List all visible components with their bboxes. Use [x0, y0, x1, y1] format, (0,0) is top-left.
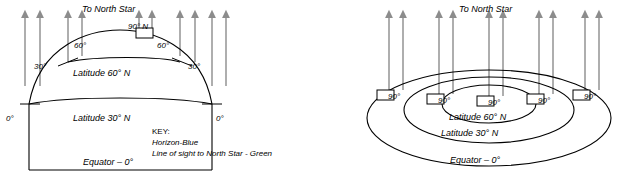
angle-label-30-left: 30° [34, 62, 47, 71]
right-latitude-60-label: Latitude 60° N [449, 112, 507, 122]
right-equator-label: Equator – 0° [450, 155, 501, 165]
latitude-60-label: Latitude 60° N [73, 68, 131, 78]
key-line-horizon: Horizon-Blue [152, 138, 199, 147]
angle-label-0-left: 0° [6, 114, 14, 123]
left-title: To North Star [82, 4, 136, 14]
angle-label-0-right: 0° [216, 114, 224, 123]
key-line-sight: Line of sight to North Star - Green [152, 149, 273, 158]
latitude-60-line [68, 58, 180, 63]
right-angle-label-3: 90° [488, 98, 501, 107]
right-latitude-30-label: Latitude 30° N [441, 128, 499, 138]
earth-dome [29, 30, 212, 104]
angle-label-60-right: 60° [157, 41, 170, 50]
right-angle-label-1: 90° [388, 92, 401, 101]
right-angle-label-2: 90° [438, 96, 451, 105]
right-north-star-arrows [389, 14, 599, 96]
right-panel-group: To North Star 90° 90° 90° 90° 90° Latitu… [367, 4, 611, 166]
left-panel-group: To North Star 90° N 60° 60° 30° 30° 0° 0… [6, 4, 273, 170]
right-angle-label-4: 90° [538, 96, 551, 105]
right-title: To North Star [459, 4, 513, 14]
angle-label-60-left: 60° [74, 41, 87, 50]
equator-label: Equator – 0° [83, 157, 134, 167]
right-angle-label-5: 90° [584, 92, 597, 101]
latitude-30-line [29, 98, 212, 104]
diagram-canvas: To North Star 90° N 60° 60° 30° 30° 0° 0… [0, 0, 635, 184]
earth-latitude-diagram: To North Star 90° N 60° 60° 30° 30° 0° 0… [0, 0, 635, 184]
latitude-30-label: Latitude 30° N [73, 113, 131, 123]
angle-label-30-right: 30° [188, 62, 201, 71]
angle-label-90n: 90° N [128, 22, 148, 31]
key-title: KEY: [152, 127, 170, 136]
